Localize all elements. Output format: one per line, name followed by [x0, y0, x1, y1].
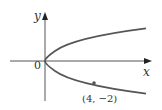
origin-label: 0 [34, 59, 41, 72]
point-label: (4, −2) [82, 93, 117, 104]
y-axis-label: y [33, 9, 41, 23]
x-axis-label: x [143, 65, 150, 79]
parabola-diagram: y x 0 (4, −2) [0, 0, 162, 110]
point-marker [92, 81, 96, 85]
x-axis-arrow-icon [144, 58, 152, 64]
y-axis-arrow-icon [42, 12, 48, 20]
